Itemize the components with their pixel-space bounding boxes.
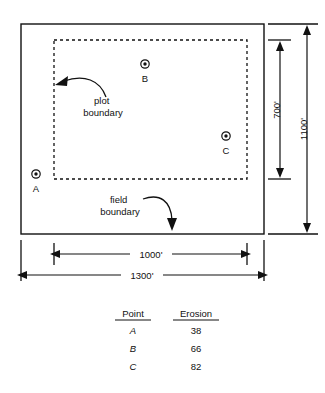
dim-1100-label: 1100': [298, 118, 309, 140]
erosion-field-diagram: A B C plot boundary field boundary: [0, 0, 325, 393]
dim-1100-arrowhead-top: [303, 25, 311, 35]
table-row: C 82: [130, 361, 202, 372]
bullseye-marker-center: [34, 172, 37, 175]
dim-700-arrowhead-top: [276, 41, 284, 51]
dim-1000-arrowhead-left: [50, 250, 60, 258]
table-cell-erosion: 82: [191, 361, 202, 372]
plot-boundary-label: plot boundary: [83, 95, 123, 118]
dim-700-arrowhead-bottom: [276, 168, 284, 178]
table-cell-erosion: 38: [191, 325, 202, 336]
bullseye-marker-center: [143, 62, 146, 65]
dim-1000-arrowhead-right: [241, 250, 251, 258]
point-marker-c: [222, 132, 230, 140]
table-cell-erosion: 66: [191, 343, 202, 354]
bullseye-marker-center: [224, 134, 227, 137]
dim-700-label: 700': [271, 101, 282, 119]
field-boundary-arrowhead: [167, 218, 177, 231]
point-label-a: A: [33, 183, 40, 194]
point-marker-b: [141, 60, 149, 68]
plot-boundary-arrowhead: [55, 76, 68, 86]
field-boundary-label: field boundary: [100, 194, 140, 217]
dim-1300-arrowhead-left: [17, 271, 27, 279]
table-cell-point: A: [129, 325, 136, 336]
dim-1300-arrowhead-right: [258, 271, 268, 279]
dim-1100-arrowhead-bottom: [303, 223, 311, 233]
field-boundary-word-2: boundary: [100, 206, 140, 217]
table-row: B 66: [130, 343, 201, 354]
table-cell-point: B: [130, 343, 137, 354]
erosion-table: Point Erosion A 38 B 66 C 82: [115, 308, 219, 372]
point-label-c: C: [223, 145, 230, 156]
plot-boundary-word-2: boundary: [83, 107, 123, 118]
field-boundary-word-1: field: [110, 194, 127, 205]
table-cell-point: C: [130, 361, 137, 372]
dim-1000-label: 1000': [140, 249, 163, 260]
table-header-erosion: Erosion: [180, 308, 212, 319]
table-row: A 38: [129, 325, 201, 336]
point-marker-a: [32, 170, 40, 178]
table-header-point: Point: [122, 308, 144, 319]
field-boundary-rect: [21, 24, 264, 234]
plot-boundary-word-1: plot: [94, 95, 110, 106]
field-boundary-leader-arrow: [143, 197, 172, 220]
dim-1300-label: 1300': [131, 270, 154, 281]
point-label-b: B: [142, 73, 148, 84]
